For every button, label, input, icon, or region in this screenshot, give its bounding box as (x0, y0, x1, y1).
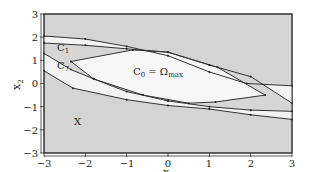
y-tick-label: −2 (23, 125, 38, 136)
x-axis-label-var: x (163, 166, 170, 172)
y-tick-label: 2 (32, 32, 38, 43)
vertex-marker (132, 49, 134, 51)
vertex-marker (217, 66, 219, 68)
vertex-marker (84, 44, 86, 46)
vertex-marker (167, 100, 169, 102)
vertex-marker (70, 60, 72, 62)
vertex-marker (126, 91, 128, 93)
vertex-marker (208, 106, 210, 108)
vertex-marker (167, 51, 169, 53)
vertex-marker (264, 94, 266, 96)
c0-label-eq-sub: max (168, 71, 183, 79)
vertex-marker (72, 87, 74, 89)
vertex-marker (70, 69, 72, 71)
y-tick-label: −1 (23, 102, 38, 113)
vertex-marker (167, 55, 169, 57)
vertex-marker (250, 109, 252, 111)
x-tick-label: 2 (248, 158, 254, 169)
vertex-marker (84, 38, 86, 40)
x-axis-label-text: x1 (163, 166, 174, 172)
vertex-marker (167, 105, 169, 107)
c1-label-sub: 1 (65, 47, 69, 55)
x-tick-label: 1 (206, 158, 212, 169)
vertex-marker (250, 76, 252, 78)
y-axis-label: x2 (10, 79, 25, 90)
c0-label-eq: = Ω (145, 66, 168, 77)
y-tick-label: 1 (32, 55, 38, 66)
invariant-set-plot: −3 −2 −1 0 1 2 3 3 2 1 0 −1 −2 −3 x1 x2 … (0, 0, 309, 172)
y-tick-labels: 3 2 1 0 −1 −2 −3 (23, 9, 38, 159)
vertex-marker (93, 78, 95, 80)
y-tick-label: −3 (23, 148, 38, 159)
region-x-label: X (74, 116, 82, 127)
vertex-marker (208, 108, 210, 110)
vertex-marker (246, 83, 248, 85)
vertex-marker (250, 114, 252, 116)
vertex-marker (126, 45, 128, 47)
vertex-marker (215, 101, 217, 103)
c7-label-sub: 7 (65, 65, 69, 73)
vertex-marker (126, 48, 128, 50)
vertex-marker (188, 102, 190, 104)
x-tick-label: −1 (120, 158, 135, 169)
y-tick-label: 3 (32, 9, 38, 20)
x-tick-label: −2 (78, 158, 93, 169)
x-tick-label: −3 (37, 158, 52, 169)
x-tick-label: 3 (289, 158, 295, 169)
vertex-marker (208, 64, 210, 66)
vertex-marker (208, 71, 210, 73)
y-axis-label-sub: 2 (17, 79, 25, 83)
y-tick-label: 0 (32, 78, 38, 89)
vertex-marker (126, 99, 128, 101)
vertex-marker (142, 94, 144, 96)
